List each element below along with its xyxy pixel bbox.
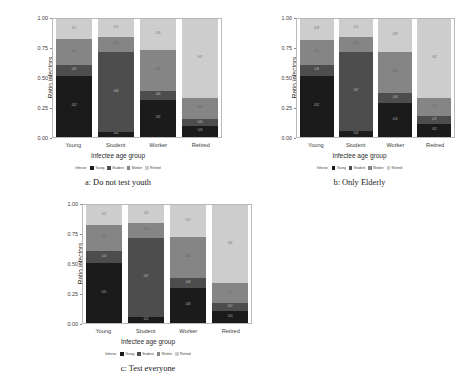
stacked-bar[interactable]: 0.310.080.350.26 — [140, 19, 177, 137]
bar-segment-young[interactable]: 0.31 — [140, 100, 177, 137]
bar-segment-young[interactable]: 0.10 — [212, 311, 249, 323]
bar-segment-retired[interactable]: 0.15 — [339, 19, 373, 37]
stacked-bar[interactable]: 0.100.070.170.66 — [212, 205, 249, 323]
stacked-bar[interactable]: 0.290.080.350.28 — [378, 19, 412, 137]
legend-item-student[interactable]: Student — [349, 166, 365, 170]
legend-item-student[interactable]: Student — [137, 352, 153, 356]
bar-segment-student[interactable]: 0.09 — [300, 65, 334, 76]
bar-segment-worker[interactable]: 0.17 — [212, 283, 249, 303]
bar-segment-worker[interactable]: 0.13 — [339, 37, 373, 52]
bar-segment-student[interactable]: 0.08 — [140, 91, 177, 100]
bar-segment-student[interactable]: 0.06 — [182, 119, 219, 126]
bar-segment-value: 0.11 — [432, 129, 436, 132]
y-axis-tick-label: 0.50 — [282, 75, 293, 81]
bar-segment-young[interactable]: 0.04 — [98, 132, 135, 137]
stacked-bar[interactable]: 0.050.670.130.15 — [339, 19, 373, 137]
bar-segment-value: 0.27 — [186, 220, 191, 223]
bar-segment-value: 0.67 — [354, 90, 359, 93]
legend-label: Young — [337, 166, 346, 170]
bar-segment-retired[interactable]: 0.17 — [56, 19, 93, 39]
legend-item-student[interactable]: Student — [107, 166, 123, 170]
bar-segment-worker[interactable]: 0.35 — [378, 52, 412, 93]
stacked-bar[interactable]: 0.520.090.220.17 — [56, 19, 93, 137]
bar-segment-worker[interactable]: 0.18 — [182, 98, 219, 119]
stacked-bar[interactable]: 0.510.100.220.17 — [86, 205, 123, 323]
legend-item-young[interactable]: Young — [332, 166, 346, 170]
bar-segment-value: 0.09 — [72, 69, 77, 72]
bar-segment-retired[interactable]: 0.15 — [128, 205, 165, 223]
bar-segment-retired[interactable]: 0.15 — [98, 19, 135, 37]
stacked-bar[interactable]: 0.300.080.350.27 — [170, 205, 207, 323]
bar-segment-value: 0.67 — [144, 276, 149, 279]
bar-segment-student[interactable]: 0.07 — [212, 303, 249, 311]
bar-segment-retired[interactable]: 0.67 — [182, 19, 219, 98]
bar-segment-worker[interactable]: 0.35 — [140, 50, 177, 91]
stacked-bar[interactable]: 0.050.670.130.15 — [128, 205, 165, 323]
bar-segment-retired[interactable]: 0.18 — [300, 19, 334, 40]
bar-segment-retired[interactable]: 0.26 — [140, 19, 177, 50]
legend-item-retired[interactable]: Retired — [175, 352, 191, 356]
bar-segment-worker[interactable]: 0.21 — [300, 40, 334, 65]
bar-segment-student[interactable]: 0.08 — [170, 278, 207, 287]
bar-segment-young[interactable]: 0.52 — [56, 76, 93, 137]
legend-item-worker[interactable]: Worker — [127, 166, 142, 170]
legend-item-retired[interactable]: Retired — [387, 166, 403, 170]
y-axis-tick-label: 0.75 — [38, 45, 49, 51]
bar-segment-value: 0.15 — [432, 106, 437, 109]
x-axis-label: Infectee age group — [30, 338, 266, 345]
bar-segment-student[interactable]: 0.68 — [98, 52, 135, 132]
stacked-bar[interactable]: 0.110.070.150.67 — [417, 19, 451, 137]
chart-legend: InfectorYoungStudentWorkerRetired — [30, 352, 266, 356]
legend-item-worker[interactable]: Worker — [368, 166, 383, 170]
bar-segment-young[interactable]: 0.11 — [417, 124, 451, 137]
y-axis-tick-label: 0.00 — [282, 135, 293, 141]
bar-segment-worker[interactable]: 0.15 — [417, 98, 451, 116]
bar-segment-student[interactable]: 0.09 — [56, 65, 93, 76]
bar-segment-young[interactable]: 0.05 — [128, 317, 165, 323]
bar-segment-student[interactable]: 0.67 — [339, 52, 373, 131]
bar-segment-retired[interactable]: 0.66 — [212, 205, 249, 283]
bar-segment-value: 0.22 — [102, 237, 107, 240]
legend-item-young[interactable]: Young — [90, 166, 104, 170]
bar-segment-young[interactable]: 0.29 — [378, 103, 412, 137]
bar-segment-retired[interactable]: 0.28 — [378, 19, 412, 52]
y-axis-tick-label: 0.00 — [68, 321, 79, 327]
bar-segment-worker[interactable]: 0.22 — [86, 225, 123, 251]
bar-segment-student[interactable]: 0.67 — [128, 238, 165, 317]
figure-caption-a: a: Do not test youth — [0, 178, 236, 187]
bar-segment-young[interactable]: 0.05 — [339, 131, 373, 137]
figure-panel-a: Ratio infectors0.520.090.220.170.040.680… — [0, 4, 236, 186]
stacked-bar[interactable]: 0.040.680.130.15 — [98, 19, 135, 137]
bar-segment-retired[interactable]: 0.67 — [417, 19, 451, 98]
legend-item-retired[interactable]: Retired — [145, 166, 161, 170]
bar-segment-retired[interactable]: 0.17 — [86, 205, 123, 225]
figure-caption-b: b: Only Elderly — [248, 178, 471, 187]
bar-segment-student[interactable]: 0.07 — [417, 116, 451, 124]
legend-swatch-worker — [127, 166, 130, 169]
bar-segment-worker[interactable]: 0.22 — [56, 39, 93, 65]
legend-item-worker[interactable]: Worker — [157, 352, 172, 356]
stacked-bar[interactable]: 0.090.060.180.67 — [182, 19, 219, 137]
bar-segment-young[interactable]: 0.52 — [300, 76, 334, 137]
plot-area: 0.520.090.210.180.050.670.130.150.290.08… — [296, 18, 455, 138]
y-axis-tick-mark — [294, 108, 297, 109]
y-axis-tick-label: 1.00 — [38, 15, 49, 21]
bar-segment-worker[interactable]: 0.13 — [128, 223, 165, 238]
legend-label: Student — [142, 352, 153, 356]
legend-item-young[interactable]: Young — [120, 352, 134, 356]
bar-segment-young[interactable]: 0.09 — [182, 126, 219, 137]
bar-segment-worker[interactable]: 0.35 — [170, 237, 207, 278]
bar-segment-worker[interactable]: 0.13 — [98, 37, 135, 52]
bar-segment-student[interactable]: 0.08 — [378, 93, 412, 102]
y-axis-tick-mark — [80, 234, 83, 235]
bar-segment-value: 0.18 — [198, 107, 203, 110]
y-axis-tick-mark — [50, 138, 53, 139]
bar-segment-student[interactable]: 0.10 — [86, 251, 123, 263]
bar-segment-young[interactable]: 0.51 — [86, 263, 123, 323]
bar-segment-retired[interactable]: 0.27 — [170, 205, 207, 237]
bar-segment-young[interactable]: 0.30 — [170, 288, 207, 323]
chart-legend: InfectorYoungStudentWorkerRetired — [0, 166, 236, 170]
stacked-bar[interactable]: 0.520.090.210.18 — [300, 19, 334, 137]
bar-segment-value: 0.18 — [314, 28, 319, 31]
legend-label: Student — [354, 166, 365, 170]
